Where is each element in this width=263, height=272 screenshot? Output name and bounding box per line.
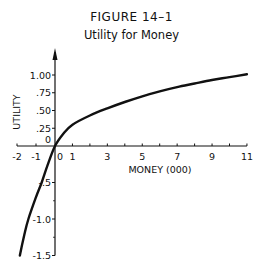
- y-tick-label: 1.00: [30, 70, 51, 81]
- y-tick-label: .50: [36, 105, 51, 116]
- y-tick-label: -1.5: [32, 250, 51, 261]
- x-tick-label: 1: [69, 151, 75, 162]
- x-tick-label: 3: [104, 151, 110, 162]
- x-tick-label: 9: [209, 151, 215, 162]
- y-axis-label: UTILITY: [11, 94, 22, 129]
- x-tick-label: 11: [241, 151, 253, 162]
- x-tick-label: -2: [12, 151, 21, 162]
- y-tick-label: .75: [36, 87, 51, 98]
- utility-chart: -2-1013579111.00.75.50.250-.5-1.0-1.5 UT…: [0, 0, 263, 272]
- x-tick-label: 5: [139, 151, 145, 162]
- y-tick-label: 0: [45, 134, 51, 145]
- x-axis-label: MONEY (000): [128, 164, 191, 175]
- x-tick-label: 0: [57, 151, 63, 162]
- y-tick-label: -1.0: [32, 214, 51, 225]
- x-tick-label: 7: [174, 151, 180, 162]
- arrow-up-icon: [53, 48, 58, 60]
- x-tick-label: -1: [31, 151, 40, 162]
- y-tick-label: .25: [36, 123, 51, 134]
